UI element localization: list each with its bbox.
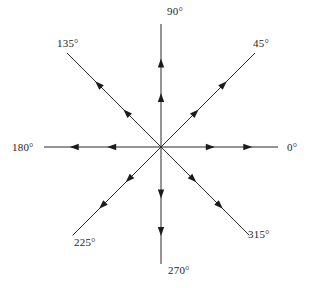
ray-0-label: 0° [287, 141, 297, 153]
ray-45-label: 45° [253, 37, 269, 49]
ray-225-line [73, 147, 161, 235]
ray-0-arrowhead-2 [243, 144, 252, 150]
ray-135-line [67, 53, 161, 147]
ray-270-arrowhead-2 [158, 227, 164, 236]
ray-135-label: 135° [57, 37, 79, 49]
compass-angle-diagram: 0°45°90°135°180°225°270°315° [0, 0, 313, 288]
ray-180-arrowhead-1 [107, 144, 116, 150]
ray-270-label: 270° [168, 264, 190, 276]
ray-45-line [161, 53, 255, 147]
ray-315-line [161, 147, 249, 235]
ray-225-label: 225° [74, 236, 96, 248]
ray-315-label: 315° [248, 228, 270, 240]
ray-180-arrowhead-2 [70, 144, 79, 150]
ray-90-arrowhead-2 [158, 58, 164, 67]
ray-180-label: 180° [12, 141, 34, 153]
ray-270-arrowhead-1 [158, 189, 164, 198]
ray-0-arrowhead-1 [206, 144, 215, 150]
ray-90-arrowhead-1 [158, 93, 164, 102]
ray-90-label: 90° [167, 5, 183, 17]
